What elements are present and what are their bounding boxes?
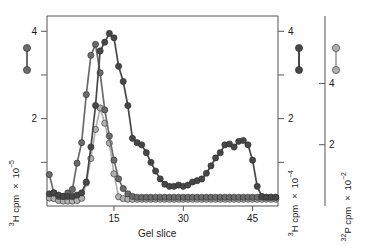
data-point — [83, 92, 89, 98]
y-right-outer-axis-title: 32P cpm × 10−2 — [340, 172, 353, 243]
data-point — [143, 150, 149, 156]
series-line — [49, 33, 275, 197]
y-left-tick-label: 4 — [31, 26, 37, 37]
data-point — [120, 185, 126, 191]
data-point — [92, 41, 98, 47]
data-point — [148, 159, 154, 165]
data-point — [139, 142, 145, 148]
legend-marker-bottom — [332, 66, 339, 73]
data-point — [111, 35, 117, 41]
y-right-outer-tick-label: 2 — [329, 139, 335, 150]
y-left-tick-label: 2 — [31, 113, 37, 124]
legend-marker-top — [23, 44, 30, 51]
data-point — [273, 194, 279, 200]
data-point — [88, 52, 94, 58]
data-point — [83, 179, 89, 185]
data-point — [249, 157, 255, 163]
chart-canvas: 242424153045 — [0, 0, 365, 246]
data-point — [97, 48, 103, 54]
data-point — [92, 102, 98, 108]
legend-marker-bottom — [295, 66, 302, 73]
data-point — [79, 190, 85, 196]
data-point — [203, 170, 209, 176]
y-right-outer-tick-label: 4 — [329, 78, 335, 89]
data-point — [69, 186, 75, 192]
x-axis-tick-label: 15 — [108, 213, 120, 224]
data-point — [254, 183, 260, 189]
data-point — [116, 176, 122, 182]
series-3 — [46, 105, 279, 204]
data-point — [157, 176, 163, 182]
chart-figure: 242424153045 3H cpm × 10−5 3H cpm × 10−4… — [0, 0, 365, 246]
legend-3h-10-5 — [23, 44, 30, 73]
series-2 — [46, 30, 279, 200]
legend-32p-10-2 — [332, 44, 339, 73]
data-point — [111, 157, 117, 163]
data-point — [217, 150, 223, 156]
data-point — [106, 133, 112, 139]
x-axis-title: Gel slice — [138, 228, 176, 239]
y-right-inner-tick-label: 4 — [288, 26, 294, 37]
series-line — [49, 44, 275, 197]
legend-3h-10-4 — [295, 44, 302, 73]
data-point — [79, 140, 85, 146]
legend-marker-top — [295, 44, 302, 51]
data-point — [120, 78, 126, 84]
data-point — [152, 168, 158, 174]
data-point — [208, 163, 214, 169]
legend-marker-bottom — [23, 66, 30, 73]
x-axis-tick-label: 30 — [178, 213, 190, 224]
data-point — [88, 144, 94, 150]
data-point — [116, 63, 122, 69]
data-point — [46, 171, 52, 177]
y-right-inner-tick-label: 2 — [288, 113, 294, 124]
data-point — [213, 155, 219, 161]
data-point — [245, 142, 251, 148]
data-point — [199, 176, 205, 182]
data-point — [102, 107, 108, 113]
x-axis-tick-label: 45 — [247, 213, 259, 224]
y-right-inner-axis-title: 3H cpm × 10−4 — [287, 170, 300, 238]
data-point — [74, 160, 80, 166]
data-point — [102, 39, 108, 45]
legend-marker-top — [332, 44, 339, 51]
data-point — [125, 102, 131, 108]
data-point — [231, 144, 237, 150]
y-left-axis-title: 3H cpm × 10−5 — [8, 160, 21, 228]
